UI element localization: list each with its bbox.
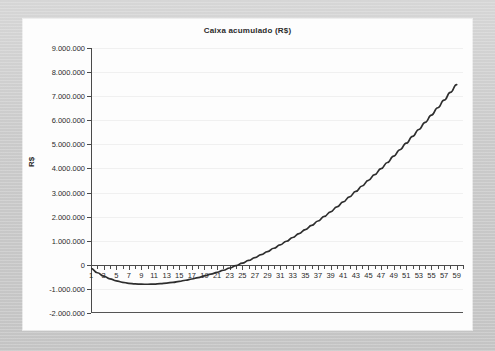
y-axis-tick-label: 0 xyxy=(81,260,85,269)
y-axis-tick-label: 6.000.000 xyxy=(52,116,85,125)
y-axis-tick-label: 3.000.000 xyxy=(52,188,85,197)
y-axis-tick-label: 8.000.000 xyxy=(52,68,85,77)
y-axis-tick-label: 9.000.000 xyxy=(52,44,85,53)
y-axis-tick-label: -1.000.000 xyxy=(49,284,85,293)
plot-area: 9.000.0008.000.0007.000.0006.000.0005.00… xyxy=(91,48,463,313)
screenshot-page: Caixa acumulado (R$) R$ 9.000.0008.000.0… xyxy=(0,0,495,351)
x-axis-tick xyxy=(463,265,464,269)
y-axis-tick-label: 2.000.000 xyxy=(52,212,85,221)
chart-title: Caixa acumulado (R$) xyxy=(23,26,472,35)
chart-card: Caixa acumulado (R$) R$ 9.000.0008.000.0… xyxy=(23,19,472,330)
y-axis-title: R$ xyxy=(27,157,36,167)
y-axis-tick-label: 5.000.000 xyxy=(52,140,85,149)
series-path xyxy=(91,85,457,285)
series-line-caixa-acumulado xyxy=(91,48,463,313)
y-axis-tick-label: -2.000.000 xyxy=(49,309,85,318)
y-axis-tick-label: 4.000.000 xyxy=(52,164,85,173)
y-axis-tick xyxy=(87,313,91,314)
y-axis-tick-label: 1.000.000 xyxy=(52,236,85,245)
y-axis-tick-label: 7.000.000 xyxy=(52,92,85,101)
